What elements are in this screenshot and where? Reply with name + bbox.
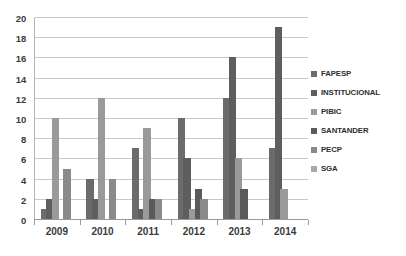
legend-swatch-icon <box>311 71 317 77</box>
y-axis-tick-label: 16 <box>16 53 26 64</box>
bar <box>98 98 106 219</box>
bars-layer <box>34 18 308 220</box>
bar <box>109 179 117 219</box>
legend-item-label: FAPESP <box>321 69 351 78</box>
bar <box>63 169 71 220</box>
legend-item[interactable]: SGA <box>311 159 405 178</box>
legend-item[interactable]: PIBIC <box>311 102 405 121</box>
y-axis-tick-label: 6 <box>21 154 26 165</box>
legend-item-label: SGA <box>321 164 338 173</box>
legend-swatch-icon <box>311 147 317 153</box>
x-axis-tick-label: 2011 <box>137 226 159 237</box>
x-axis-tick <box>171 220 172 225</box>
y-axis-tick-label: 14 <box>16 73 26 84</box>
x-axis-tick <box>80 220 81 225</box>
legend-item-label: PECP <box>321 145 342 154</box>
chart-legend: FAPESPINSTITUCIONALPIBICSANTANDERPECPSGA <box>311 64 405 178</box>
x-axis-tick <box>308 220 309 225</box>
x-axis-tick-label: 2012 <box>183 226 205 237</box>
legend-swatch-icon <box>311 109 317 115</box>
legend-item[interactable]: FAPESP <box>311 64 405 83</box>
x-axis-tick <box>217 220 218 225</box>
legend-item-label: PIBIC <box>321 107 341 116</box>
x-axis-tick <box>262 220 263 225</box>
legend-item[interactable]: PECP <box>311 140 405 159</box>
bar <box>200 199 208 219</box>
x-axis-tick <box>125 220 126 225</box>
legend-swatch-icon <box>311 90 317 96</box>
x-axis-tick <box>34 220 35 225</box>
bar <box>280 189 288 219</box>
x-axis-tick-label: 2009 <box>46 226 68 237</box>
y-axis-tick-label: 4 <box>21 174 26 185</box>
bar <box>52 118 60 219</box>
y-axis-tick-label: 20 <box>16 13 26 24</box>
legend-item-label: SANTANDER <box>321 126 368 135</box>
y-axis-tick-label: 18 <box>16 33 26 44</box>
y-axis-tick-label: 12 <box>16 93 26 104</box>
x-axis-tick-labels: 200920102011201220132014 <box>34 226 308 244</box>
bar <box>240 189 248 219</box>
y-axis-tick-label: 10 <box>16 114 26 125</box>
y-axis-tick-label: 0 <box>21 215 26 226</box>
legend-item-label: INSTITUCIONAL <box>321 88 380 97</box>
x-axis-tick-label: 2010 <box>91 226 113 237</box>
legend-swatch-icon <box>311 166 317 172</box>
legend-swatch-icon <box>311 128 317 134</box>
legend-item[interactable]: SANTANDER <box>311 121 405 140</box>
x-axis-tick-label: 2014 <box>274 226 296 237</box>
plot-area <box>34 18 308 220</box>
x-axis-tick-label: 2013 <box>228 226 250 237</box>
y-axis-tick-label: 2 <box>21 194 26 205</box>
legend-item[interactable]: INSTITUCIONAL <box>311 83 405 102</box>
y-axis-tick-labels: 02468101214161820 <box>0 18 30 220</box>
bar-chart: 02468101214161820 2009201020112012201320… <box>0 0 406 256</box>
bar <box>155 199 163 219</box>
y-axis-tick-label: 8 <box>21 134 26 145</box>
